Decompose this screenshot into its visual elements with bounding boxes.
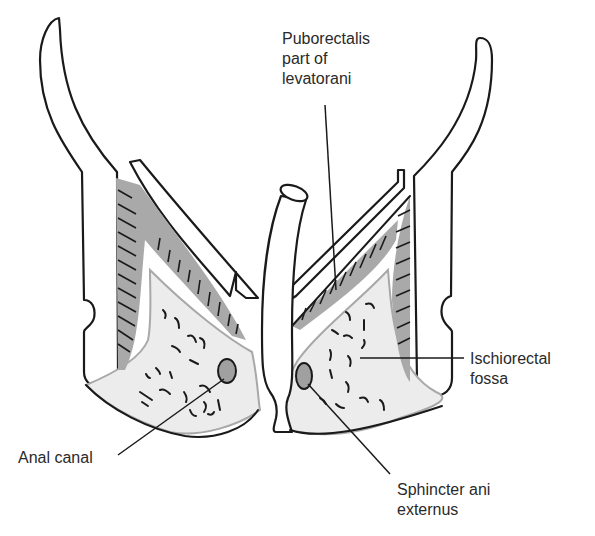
label-anal-canal: Anal canal	[18, 448, 93, 468]
label-ischiorectal-fossa: Ischiorectal fossa	[470, 349, 551, 389]
left-pelvic-wall	[40, 18, 118, 388]
label-puborectalis: Puborectalis part of levatorani	[282, 29, 370, 89]
left-sphincter-ani	[218, 359, 236, 383]
label-sphincter-ani-externus: Sphincter ani externus	[397, 480, 490, 520]
right-pelvic-wall	[414, 38, 492, 396]
